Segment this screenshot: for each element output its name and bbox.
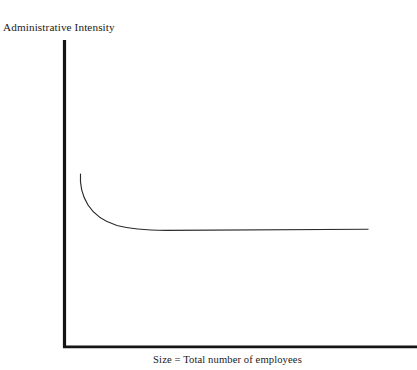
administrative-intensity-curve [80,174,368,230]
chart-canvas [0,0,417,370]
y-axis-label: Administrative Intensity [3,21,115,34]
x-axis-label: Size = Total number of employees [0,353,417,366]
figure-container: Administrative Intensity Size = Total nu… [0,0,417,370]
